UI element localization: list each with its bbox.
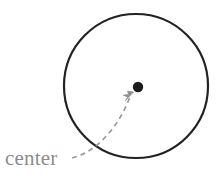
center-label: center	[5, 146, 58, 170]
center-point-dot	[133, 82, 143, 92]
circle-center-figure: center	[0, 0, 223, 178]
diagram-canvas: center	[0, 0, 223, 178]
